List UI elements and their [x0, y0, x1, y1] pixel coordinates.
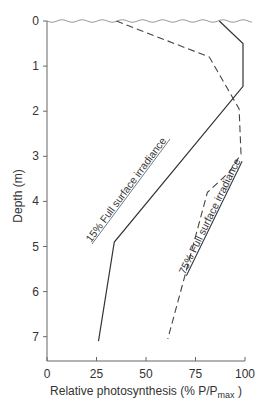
- series-75pct-label: 75% Full surface irradiance: [176, 156, 243, 276]
- x-tick-label: 50: [139, 367, 153, 381]
- y-tick-label: 0: [32, 14, 39, 28]
- y-tick-label: 4: [32, 194, 39, 208]
- series-15pct-label-underline: [92, 139, 170, 244]
- x-tick-label: 75: [189, 367, 203, 381]
- y-axis-label: Depth (m): [11, 169, 25, 222]
- y-tick-label: 7: [32, 330, 39, 344]
- depth-photosynthesis-chart: 01234567 0255075100 15% Full surface irr…: [0, 0, 268, 408]
- water-surface-line: [47, 20, 252, 22]
- y-axis-ticks: 01234567: [32, 14, 47, 344]
- y-tick-label: 5: [32, 240, 39, 254]
- x-tick-label: 0: [44, 367, 51, 381]
- y-tick-label: 6: [32, 285, 39, 299]
- x-axis-label: Relative photosynthesis (% P/Pmax ): [50, 384, 242, 400]
- y-tick-label: 3: [32, 149, 39, 163]
- y-tick-label: 1: [32, 59, 39, 73]
- x-tick-label: 25: [90, 367, 104, 381]
- x-tick-label: 100: [235, 367, 255, 381]
- y-tick-label: 2: [32, 104, 39, 118]
